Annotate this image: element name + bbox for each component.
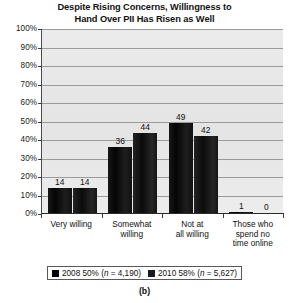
y-axis-tick-mark [38, 66, 42, 67]
gridline [42, 29, 283, 30]
y-axis-tick-mark [38, 159, 42, 160]
x-axis-category-line: Very willing [37, 220, 106, 230]
chart-title-line-2: Hand Over PII Has Risen as Well [18, 14, 271, 26]
x-axis-category-label: Somewhatwilling [98, 220, 167, 239]
bar-value-label: 49 [163, 113, 199, 122]
x-axis-category-line: willing [98, 230, 167, 240]
bar-2010-2[interactable] [194, 136, 218, 214]
gridline [42, 159, 283, 160]
figure-caption: (b) [0, 286, 289, 296]
y-axis-tick-label: 30% [3, 155, 37, 163]
plot-area: 14143644494210 [41, 29, 283, 214]
y-axis-tick-mark [38, 103, 42, 104]
x-axis-tick-mark [283, 214, 284, 218]
bar-2010-1[interactable] [133, 133, 157, 214]
bar-value-label: 0 [248, 203, 284, 212]
x-axis-tick-mark [102, 214, 103, 218]
y-axis-tick-label: 80% [3, 62, 37, 70]
y-axis-tick-label: 0% [3, 210, 37, 218]
x-axis-category-line: all willing [158, 230, 227, 240]
x-axis-tick-mark [162, 214, 163, 218]
gridline [42, 103, 283, 104]
legend-entry-2008[interactable]: 2008 50% (n = 4,190) [52, 269, 141, 278]
x-axis-category-label: Very willing [37, 220, 106, 230]
y-axis-tick-label: 70% [3, 81, 37, 89]
y-axis-tick-mark [38, 85, 42, 86]
bar-value-label: 14 [67, 178, 103, 187]
y-axis-tick-mark [38, 29, 42, 30]
y-axis-tick-label: 20% [3, 173, 37, 181]
x-axis-category-label: Those whospend notime online [219, 220, 288, 249]
y-axis-tick-mark [38, 48, 42, 49]
y-axis-tick-mark [38, 177, 42, 178]
legend-entry-2010[interactable]: 2010 58% (n = 5,627) [148, 269, 237, 278]
x-axis-category-line: time online [219, 239, 288, 249]
x-axis-category-label: Not atall willing [158, 220, 227, 239]
y-axis-tick-label: 60% [3, 99, 37, 107]
gridline [42, 66, 283, 67]
gridline [42, 140, 283, 141]
bar-2008-1[interactable] [108, 147, 132, 214]
bar-value-label: 42 [188, 126, 224, 135]
y-axis-tick-label: 10% [3, 192, 37, 200]
y-axis-tick-mark [38, 122, 42, 123]
y-axis: 100%90%80%70%60%50%40%30%20%10%0% [0, 29, 37, 214]
chart-title-line-1: Despite Rising Concerns, Willingness to [18, 2, 271, 14]
y-axis-tick-label: 50% [3, 118, 37, 126]
chart-title: Despite Rising Concerns, Willingness to … [18, 2, 271, 25]
gridline [42, 48, 283, 49]
y-axis-tick-label: 100% [3, 25, 37, 33]
gridline [42, 85, 283, 86]
legend-label-2008: 2008 50% (n = 4,190) [62, 269, 141, 278]
legend-swatch-2010 [148, 270, 155, 277]
y-axis-tick-mark [38, 196, 42, 197]
legend-swatch-2008 [52, 270, 59, 277]
figure-panel-b: Despite Rising Concerns, Willingness to … [0, 0, 289, 303]
bar-2008-0[interactable] [48, 188, 72, 214]
y-axis-tick-label: 90% [3, 44, 37, 52]
x-axis-tick-mark [41, 214, 42, 218]
chart-legend: 2008 50% (n = 4,190) 2010 58% (n = 5,627… [47, 266, 242, 280]
bar-2008-2[interactable] [169, 123, 193, 214]
bar-2010-0[interactable] [73, 188, 97, 214]
y-axis-tick-mark [38, 140, 42, 141]
legend-label-2010: 2010 58% (n = 5,627) [158, 269, 237, 278]
y-axis-tick-label: 40% [3, 136, 37, 144]
bar-value-label: 44 [127, 123, 163, 132]
x-axis-tick-mark [223, 214, 224, 218]
